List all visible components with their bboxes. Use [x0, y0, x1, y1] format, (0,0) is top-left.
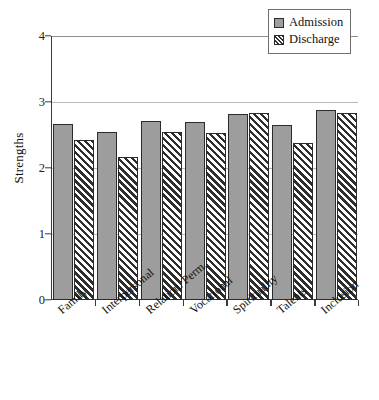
- x-tick-mark: [95, 300, 96, 306]
- x-tick-mark: [183, 300, 184, 306]
- y-tick-label-1: 1: [5, 227, 45, 242]
- bar-discharge[interactable]: [293, 143, 313, 300]
- x-tick-mark: [270, 300, 271, 306]
- bar-group: [314, 36, 358, 300]
- x-tick-mark: [139, 300, 140, 306]
- bar-admission[interactable]: [316, 110, 336, 300]
- bar-admission[interactable]: [97, 132, 117, 300]
- y-axis-title: Strengths: [11, 113, 27, 203]
- legend-label-discharge: Discharge: [289, 33, 339, 46]
- bar-group: [226, 36, 270, 300]
- x-tick-mark: [226, 300, 227, 306]
- bar-admission[interactable]: [272, 125, 292, 300]
- bar-admission[interactable]: [53, 124, 73, 300]
- bars-layer: [51, 36, 358, 300]
- bar-group: [270, 36, 314, 300]
- bar-admission[interactable]: [228, 114, 248, 300]
- bar-group: [139, 36, 183, 300]
- bar-group: [183, 36, 227, 300]
- y-tick-label-3: 3: [5, 95, 45, 110]
- y-tick-label-0: 0: [5, 293, 45, 308]
- y-tick-label-2: 2: [5, 161, 45, 176]
- bar-chart: Strengths 4 3 2 1 0 FamilyInterpersonalR…: [0, 0, 379, 400]
- bar-group: [51, 36, 95, 300]
- legend: Admission Discharge: [268, 9, 351, 54]
- legend-item-admission[interactable]: Admission: [274, 14, 343, 31]
- bar-discharge[interactable]: [74, 140, 94, 300]
- legend-label-admission: Admission: [289, 16, 343, 29]
- hatched-swatch-icon: [274, 35, 284, 45]
- x-tick-mark: [314, 300, 315, 306]
- x-tick-mark: [358, 300, 359, 306]
- bar-group: [95, 36, 139, 300]
- legend-item-discharge[interactable]: Discharge: [274, 31, 343, 48]
- bar-discharge[interactable]: [337, 113, 357, 300]
- solid-gray-swatch-icon: [274, 18, 284, 28]
- bar-discharge[interactable]: [249, 113, 269, 300]
- y-tick-label-4: 4: [5, 29, 45, 44]
